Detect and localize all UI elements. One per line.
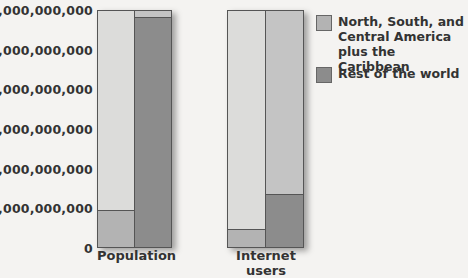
y-tick-0: 0 [84, 241, 93, 256]
legend-swatch-americas [316, 15, 332, 31]
y-tick-6b: 6,000,000,000 [0, 3, 93, 18]
population-bar-group [97, 10, 172, 248]
legend-item-americas: North, South, and Central America plus t… [316, 14, 468, 74]
y-tick-1b: 1,000,000,000 [0, 201, 93, 216]
y-tick-4b: 4,000,000,000 [0, 82, 93, 97]
x-label-population: Population [97, 248, 172, 263]
x-label-internet-users: Internet users [216, 248, 316, 278]
legend-label-rest: Rest of the world [338, 66, 468, 81]
population-americas-bar [98, 210, 134, 247]
legend-label-americas: North, South, and Central America plus t… [338, 14, 468, 74]
population-rest-bar [135, 17, 171, 247]
internet-americas-column [227, 10, 266, 248]
y-tick-5b: 5,000,000,000 [0, 43, 93, 58]
internet-americas-bar [228, 229, 265, 247]
population-rest-column [134, 10, 172, 248]
population-americas-column [97, 10, 135, 248]
internet-rest-bar [266, 194, 303, 247]
legend-item-rest: Rest of the world [316, 66, 468, 83]
y-tick-3b: 3,000,000,000 [0, 122, 93, 137]
legend-swatch-rest [316, 67, 332, 83]
internet-rest-column [265, 10, 304, 248]
internet-bar-group [227, 10, 304, 248]
y-tick-2b: 2,000,000,000 [0, 162, 93, 177]
